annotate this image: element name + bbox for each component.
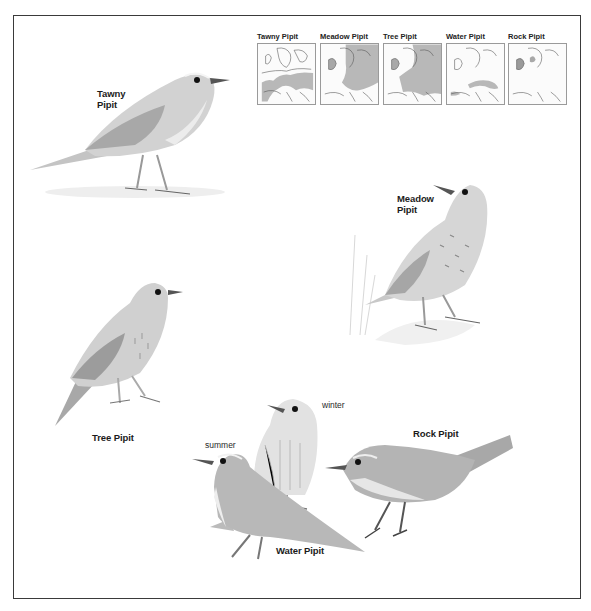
tawny-pipit-illustration [25, 60, 235, 200]
map-tree-pipit [383, 43, 442, 105]
label-water-pipit: Water Pipit [276, 545, 324, 556]
europe-map-icon [384, 44, 441, 104]
europe-map-icon [447, 44, 504, 104]
map-title-tawny: Tawny Pipit [257, 32, 298, 41]
tree-pipit-illustration [50, 278, 190, 433]
map-title-meadow: Meadow Pipit [320, 32, 368, 41]
map-rock-pipit [508, 43, 567, 105]
map-meadow-pipit [320, 43, 379, 105]
europe-map-icon [509, 44, 566, 104]
europe-map-icon [258, 44, 315, 104]
map-water-pipit [446, 43, 505, 105]
label-tree-pipit: Tree Pipit [92, 432, 134, 443]
rock-pipit-illustration [325, 430, 515, 545]
label-tawny-pipit: Tawny Pipit [97, 88, 125, 110]
label-meadow-pipit: Meadow Pipit [397, 193, 434, 215]
map-title-tree: Tree Pipit [383, 32, 417, 41]
map-title-water: Water Pipit [446, 32, 485, 41]
label-rock-pipit: Rock Pipit [413, 428, 458, 439]
label-summer: summer [205, 440, 236, 450]
europe-map-icon [321, 44, 378, 104]
label-winter: winter [322, 400, 345, 410]
map-tawny-pipit [257, 43, 316, 105]
map-title-rock: Rock Pipit [508, 32, 545, 41]
